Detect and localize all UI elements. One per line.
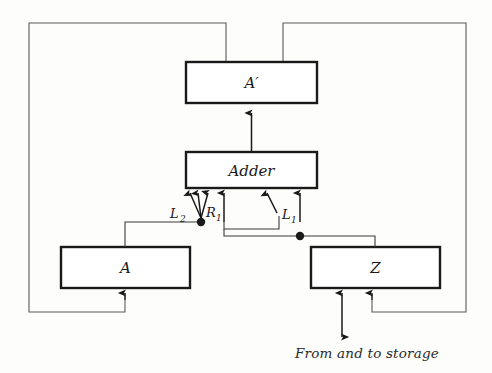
label-l2: L 2	[169, 206, 186, 224]
left-junction-dot	[197, 218, 205, 226]
box-adder[interactable]: Adder	[186, 152, 317, 188]
label-l2-base: L	[169, 206, 179, 221]
label-l1-base: L	[281, 207, 291, 222]
block-diagram: A′ Adder A Z	[0, 0, 492, 373]
right-junction-to-z-path	[300, 236, 375, 247]
label-l1-sub: 1	[291, 215, 297, 225]
label-r1-base: R	[205, 205, 216, 220]
box-a-label: A	[118, 259, 131, 277]
box-adder-label: Adder	[226, 162, 275, 180]
cross-link-path	[224, 229, 300, 236]
right-junction-dot	[296, 232, 304, 240]
box-a[interactable]: A	[61, 247, 190, 288]
box-group: A′ Adder A Z	[61, 62, 440, 288]
diagram-canvas: A′ Adder A Z	[0, 0, 492, 373]
box-z-label: Z	[369, 259, 381, 277]
label-l2-sub: 2	[179, 214, 186, 224]
label-l1: L 1	[281, 207, 297, 225]
adder-input-l1-slant	[267, 193, 277, 213]
box-a-prime-label: A′	[242, 74, 259, 92]
adder-under-wiring	[224, 216, 279, 229]
storage-caption: From and to storage	[294, 345, 439, 361]
box-z[interactable]: Z	[311, 247, 440, 288]
storage-arrows	[125, 293, 372, 337]
bracket-l1	[224, 216, 279, 229]
box-a-prime[interactable]: A′	[186, 62, 317, 103]
left-bus	[125, 222, 201, 247]
label-r1-sub: 1	[216, 213, 222, 223]
left-junction-to-a-path	[125, 222, 201, 247]
label-r1: R 1	[205, 205, 222, 223]
